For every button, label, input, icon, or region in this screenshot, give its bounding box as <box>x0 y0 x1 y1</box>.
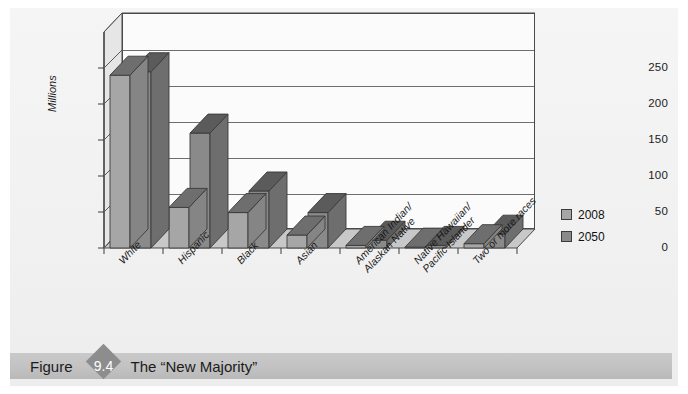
legend-item-2008[interactable]: 2008 <box>561 205 605 224</box>
legend-label-2008: 2008 <box>578 208 605 222</box>
figure-container: 250 200 150 100 50 0 Millions WhiteHispa… <box>0 0 688 394</box>
figure-number-badge: 9.4 <box>83 353 131 379</box>
legend-swatch-2008 <box>561 209 572 220</box>
figure-label-word: Figure <box>30 358 73 375</box>
figure-number: 9.4 <box>83 353 125 379</box>
legend-label-2050: 2050 <box>578 230 605 244</box>
legend-item-2050[interactable]: 2050 <box>561 227 605 246</box>
bars-layer <box>0 0 668 330</box>
figure-caption: Figure 9.4 The “New Majority” <box>10 353 257 379</box>
figure-caption-bar: Figure 9.4 The “New Majority” <box>10 353 672 379</box>
chart-legend: 2008 2050 <box>561 205 605 249</box>
legend-swatch-2050 <box>561 231 572 242</box>
bar-chart: 250 200 150 100 50 0 Millions WhiteHispa… <box>0 0 668 330</box>
figure-title: The “New Majority” <box>131 358 258 375</box>
